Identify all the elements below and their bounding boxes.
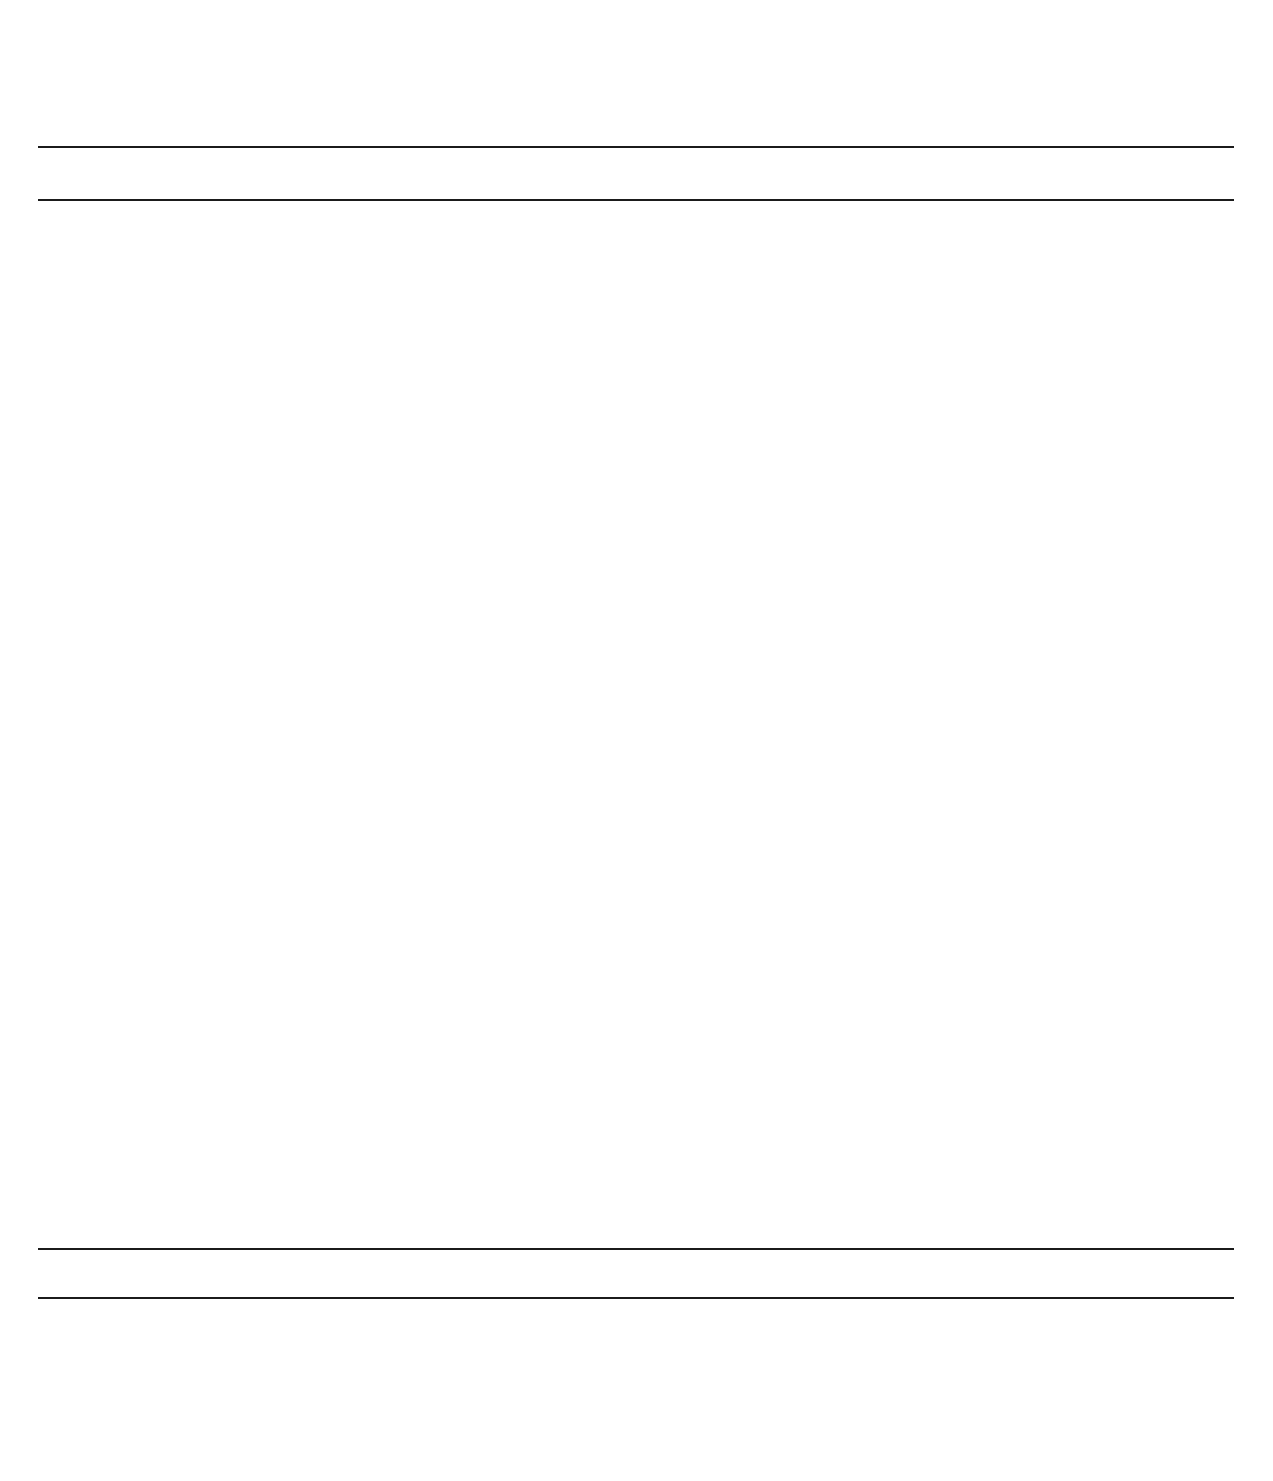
axis-bottom-rule	[38, 1248, 1234, 1250]
axis-top-rule	[38, 146, 1234, 148]
timeline-canvas	[0, 0, 1273, 1481]
axis-top-rule-2	[38, 199, 1234, 201]
axis-bottom-rule-2	[38, 1297, 1234, 1299]
